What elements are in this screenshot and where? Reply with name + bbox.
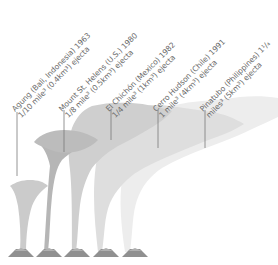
agung-volcano-icon (8, 248, 34, 257)
cerro-hudson-volcano-icon (93, 248, 119, 257)
agung-plume (10, 180, 48, 252)
eruption-comparison-diagram: Agung (Bali, Indonesia) 1963 1/10 mile³ … (0, 0, 278, 265)
st-helens-volcano-icon (36, 248, 62, 257)
el-chichon-volcano-icon (64, 248, 90, 257)
